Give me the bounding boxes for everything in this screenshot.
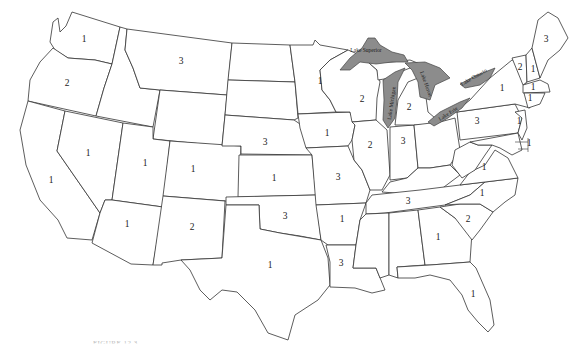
state-number-label: 1	[325, 128, 330, 138]
state-number-label: 1	[482, 162, 487, 172]
state-number-label: 1	[531, 82, 536, 92]
state-south-dakota[interactable]	[225, 80, 298, 120]
state-number-label: 1	[517, 116, 522, 126]
state-number-label: 3	[401, 136, 406, 146]
us-map: Lake Superior Lake Michigan Lake Huron L…	[0, 0, 580, 349]
state-number-label: 1	[527, 138, 532, 148]
state-number-label: 1	[268, 260, 273, 270]
state-number-label: 1	[531, 64, 536, 74]
state-number-label: 1	[318, 76, 323, 86]
state-number-label: 3	[339, 258, 344, 268]
state-number-label: 1	[480, 188, 485, 198]
state-number-label: 1	[86, 148, 91, 158]
state-number-label: 1	[272, 173, 277, 183]
state-number-label: 3	[406, 196, 411, 206]
state-number-label: 1	[500, 83, 505, 93]
state-number-label: 3	[336, 172, 341, 182]
state-number-label: 2	[360, 94, 365, 104]
state-number-label: 2	[190, 222, 195, 232]
state-north-dakota[interactable]	[228, 43, 295, 82]
state-florida[interactable]	[397, 262, 494, 332]
state-number-label: 2	[65, 78, 70, 88]
state-number-label: 3	[475, 116, 480, 126]
state-number-label: 2	[407, 102, 412, 112]
state-number-label: 2	[518, 62, 523, 72]
state-number-label: 3	[263, 137, 268, 147]
state-colorado[interactable]	[163, 141, 241, 202]
state-number-label: 1	[436, 232, 441, 242]
state-maine[interactable]	[532, 12, 568, 78]
state-wyoming[interactable]	[153, 90, 227, 146]
state-number-label: 1	[471, 289, 476, 299]
lake-label: Lake Superior	[350, 47, 381, 53]
state-outlines	[20, 12, 568, 340]
state-arizona[interactable]	[92, 200, 163, 265]
state-number-label: 3	[544, 34, 549, 44]
state-number-label: 1	[528, 93, 533, 103]
state-number-label: 1	[340, 214, 345, 224]
state-number-label: 1	[82, 34, 87, 44]
state-number-label: 2	[466, 214, 471, 224]
state-number-label: 3	[283, 211, 288, 221]
state-number-label: 1	[49, 175, 54, 185]
state-number-label: 2	[368, 140, 373, 150]
state-number-label: 1	[125, 219, 130, 229]
state-number-label: 1	[143, 158, 148, 168]
state-number-label: 1	[191, 164, 196, 174]
state-kansas[interactable]	[238, 155, 316, 197]
state-number-label: 3	[179, 56, 184, 66]
